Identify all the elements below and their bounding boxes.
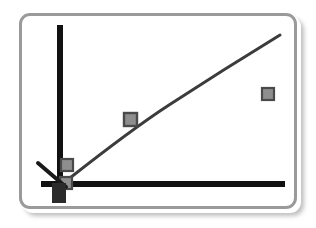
data-marker[interactable]	[124, 113, 137, 126]
chart-canvas[interactable]	[19, 13, 297, 209]
data-marker[interactable]	[262, 88, 274, 100]
plot-area[interactable]	[19, 13, 297, 209]
screenshot-root	[0, 0, 316, 228]
data-marker[interactable]	[61, 159, 73, 171]
fitted-curve	[61, 35, 280, 185]
